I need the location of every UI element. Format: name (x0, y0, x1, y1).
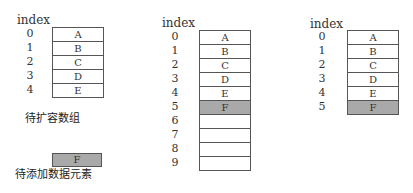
index-label: 0 (20, 27, 40, 41)
index-label: 3 (312, 72, 332, 86)
index-label: 5 (312, 100, 332, 114)
index-label: 3 (20, 69, 40, 83)
array-cell-highlighted: F (200, 100, 250, 114)
index-label: 9 (165, 156, 185, 170)
array-cell: C (200, 58, 250, 72)
index-label: 7 (165, 128, 185, 142)
index-label: 4 (20, 83, 40, 97)
right-index-header: index (310, 18, 343, 30)
array-cell: C (53, 55, 103, 69)
index-label: 2 (165, 58, 185, 72)
array-cell: A (200, 30, 250, 44)
new-element-caption: 待添加数据元素 (15, 169, 92, 181)
array-cell: B (53, 41, 103, 55)
right-array: ABCDEF (347, 30, 399, 115)
array-cell: D (200, 72, 250, 86)
array-cell-highlighted: F (348, 100, 398, 114)
index-label: 0 (165, 30, 185, 44)
array-cell (200, 128, 250, 142)
array-cell: C (348, 58, 398, 72)
index-label: 4 (312, 86, 332, 100)
left-array: ABCDE (52, 27, 104, 98)
index-label: 1 (20, 41, 40, 55)
array-cell (200, 114, 250, 128)
array-cell: B (200, 44, 250, 58)
index-label: 4 (165, 86, 185, 100)
left-array-caption: 待扩容数组 (25, 113, 80, 125)
middle-index-header: index (162, 17, 195, 29)
array-cell (200, 142, 250, 156)
middle-array: ABCDEF (199, 30, 251, 171)
array-cell: E (200, 86, 250, 100)
index-label: 3 (165, 72, 185, 86)
index-label: 6 (165, 114, 185, 128)
array-cell: D (53, 69, 103, 83)
array-cell: E (348, 86, 398, 100)
array-cell: D (348, 72, 398, 86)
index-label: 2 (20, 55, 40, 69)
index-label: 2 (312, 58, 332, 72)
array-cell: A (348, 30, 398, 44)
index-label: 0 (312, 30, 332, 44)
array-cell: A (53, 27, 103, 41)
array-cell: E (53, 83, 103, 97)
index-label: 1 (312, 44, 332, 58)
array-cell (200, 156, 250, 170)
array-cell: B (348, 44, 398, 58)
index-label: 8 (165, 142, 185, 156)
new-element-cell: F (52, 153, 102, 167)
index-label: 1 (165, 44, 185, 58)
index-label: 5 (165, 100, 185, 114)
left-index-header: index (17, 14, 50, 26)
